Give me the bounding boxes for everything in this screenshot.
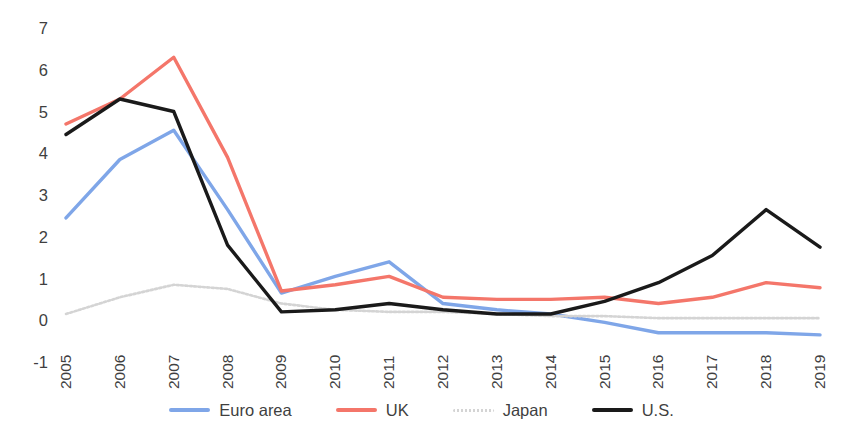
plot-area	[58, 18, 833, 358]
legend-swatch-icon	[169, 408, 210, 412]
y-tick-label: 7	[39, 20, 48, 37]
y-tick-label: 3	[39, 187, 48, 204]
x-tick-label: 2006	[112, 355, 128, 389]
y-tick-label: -1	[33, 354, 48, 371]
y-tick-label: 2	[39, 229, 48, 246]
legend-swatch-icon	[453, 409, 494, 412]
x-tick-label: 2010	[327, 355, 343, 389]
y-tick-label: 5	[39, 103, 48, 120]
series-line	[66, 57, 820, 303]
legend-item[interactable]: Euro area	[169, 402, 291, 419]
legend-item-label: Euro area	[219, 402, 291, 419]
legend-item-label: Japan	[503, 402, 548, 419]
y-tick-label: 0	[39, 312, 48, 329]
x-tick-label: 2007	[166, 355, 182, 389]
y-axis: 76543210-1	[0, 0, 58, 380]
x-tick-label: 2009	[273, 355, 289, 389]
legend-item[interactable]: Japan	[453, 402, 548, 419]
x-tick-label: 2014	[543, 355, 559, 389]
line-chart: 76543210-1 20052006200720082009201020112…	[0, 0, 843, 435]
legend-swatch-icon	[336, 408, 377, 412]
x-tick-label: 2015	[597, 355, 613, 389]
x-tick-label: 2018	[758, 355, 774, 389]
x-tick-label: 2017	[704, 355, 720, 389]
x-tick-label: 2013	[489, 355, 505, 389]
legend-swatch-icon	[592, 408, 633, 412]
x-tick-label: 2005	[58, 355, 74, 389]
legend-item-label: U.S.	[642, 402, 674, 419]
series-lines	[58, 18, 833, 358]
x-axis: 2005200620072008200920102011201220132014…	[58, 330, 833, 392]
chart-legend: Euro areaUKJapanU.S.	[0, 392, 843, 428]
x-tick-label: 2012	[435, 355, 451, 389]
legend-item[interactable]: UK	[336, 402, 409, 419]
x-tick-label: 2019	[812, 355, 828, 389]
y-tick-label: 4	[39, 145, 48, 162]
legend-item-label: UK	[386, 402, 409, 419]
series-line	[66, 130, 820, 335]
x-tick-label: 2016	[650, 355, 666, 389]
x-tick-label: 2008	[220, 355, 236, 389]
legend-item[interactable]: U.S.	[592, 402, 674, 419]
y-tick-label: 1	[39, 270, 48, 287]
y-tick-label: 6	[39, 62, 48, 79]
series-line	[66, 99, 820, 314]
x-tick-label: 2011	[381, 356, 397, 389]
